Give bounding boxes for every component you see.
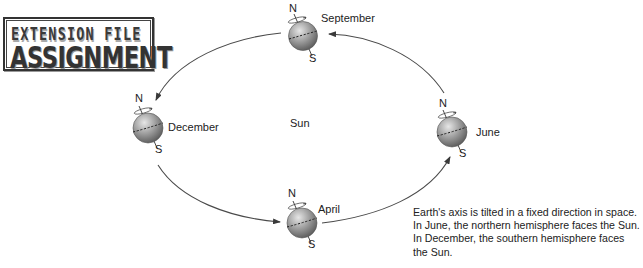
south-pole-label-december: S — [155, 143, 162, 155]
caption-line: Earth's axis is tilted in a fixed direct… — [413, 206, 643, 219]
north-pole-label-september: N — [289, 2, 297, 14]
north-pole-label-december: N — [135, 92, 143, 104]
month-label-december: December — [168, 121, 219, 133]
sun-label: Sun — [290, 117, 310, 129]
arrow-september-to-december — [156, 33, 281, 100]
south-pole-label-june: S — [459, 147, 466, 159]
globe-april — [287, 201, 317, 243]
caption-line: In June, the northern hemisphere faces t… — [413, 219, 643, 232]
diagram-caption: Earth's axis is tilted in a fixed direct… — [413, 206, 643, 259]
south-pole-label-september: S — [309, 52, 316, 64]
month-label-september: September — [321, 12, 375, 24]
caption-line: the Sun. — [413, 246, 643, 259]
globe-september — [288, 14, 318, 56]
globe-december — [133, 106, 163, 148]
arrow-december-to-april — [158, 165, 280, 222]
month-label-june: June — [476, 126, 500, 138]
globe-june — [437, 110, 467, 152]
caption-line: In December, the southern hemisphere fac… — [413, 232, 643, 245]
month-label-april: April — [318, 203, 340, 215]
north-pole-label-june: N — [439, 97, 447, 109]
north-pole-label-april: N — [288, 187, 296, 199]
arrow-june-to-september — [329, 34, 444, 93]
south-pole-label-april: S — [308, 238, 315, 250]
